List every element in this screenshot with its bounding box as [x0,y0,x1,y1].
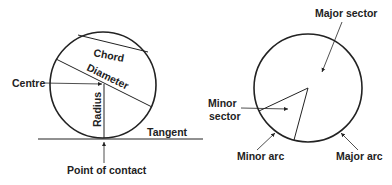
major-arc-pointer [341,133,358,150]
minor-sector-radii [259,88,308,140]
minor-sector-label-line1: Minor [208,97,237,109]
centre-label: Centre [12,77,45,89]
major-arc-label: Major arc [336,150,383,162]
radius-label: Radius [91,92,103,127]
tangent-label: Tangent [147,126,188,138]
major-sector-pointer [322,22,342,72]
minor-sector-pointer [241,108,288,109]
minor-sector-label-line2: sector [209,110,241,122]
minor-arc-pointer [257,133,275,150]
chord-label: Chord [93,46,126,64]
major-sector-label: Major sector [315,7,377,19]
centre-pointer [43,83,102,84]
minor-arc-label: Minor arc [237,150,284,162]
diameter-label: Diameter [85,61,131,91]
left-circle-diagram: Chord Diameter Centre Radius Tangent Poi… [12,32,203,176]
point-of-contact-label: Point of contact [67,164,147,176]
circle-parts-diagram: Chord Diameter Centre Radius Tangent Poi… [0,0,392,185]
right-circle-diagram: Major sector Minor sector Minor arc Majo… [208,7,383,162]
